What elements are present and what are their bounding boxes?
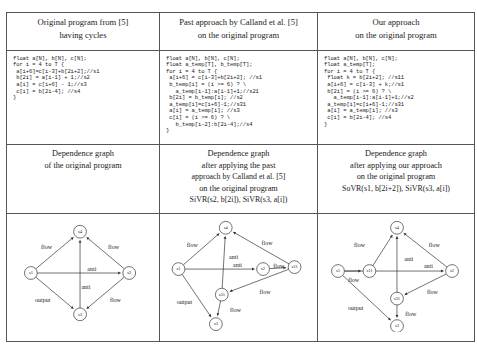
graph-edge-label: output <box>348 305 364 311</box>
graph-edge <box>233 232 289 264</box>
graph-cell-original: flowflowantiantioutputflows4s1s2s3 <box>7 214 160 342</box>
code-cell-calland: float a[N], b[N], c[N];float a_temp[T], … <box>160 50 318 145</box>
column-header-calland: Past approach by Calland et al. [5] on t… <box>160 13 317 45</box>
graph-edge-label: flow <box>262 240 274 246</box>
code-cell-ours: float a[N], b[N], c[N];float a_temp[T];f… <box>318 50 475 145</box>
caption-line: on the original program <box>162 183 315 194</box>
graph-edge <box>87 237 125 269</box>
graph-caption-calland: Dependence graphafter applying the pasta… <box>160 145 317 208</box>
table-graph-row: flowflowantiantioutputflows4s1s2s3 flowf… <box>7 214 475 342</box>
header-line: Our approach <box>321 16 471 29</box>
graph-edge-label: flow <box>260 289 272 295</box>
graph-edge-label: flow <box>405 311 417 317</box>
graph-edge-label: anti <box>424 264 433 270</box>
graph-edge-arrowhead <box>252 268 255 271</box>
graph-edge-arrowhead <box>396 315 399 318</box>
graph-node-label: s31 <box>219 292 225 297</box>
caption-line: on the original program <box>320 171 472 182</box>
graph-edge <box>183 233 219 264</box>
code-block-original: float a[N], b[N], c[N];for i = 4 to T { … <box>7 51 159 105</box>
code-block-calland: float a[N], b[N], c[N];float a_temp[T], … <box>160 51 317 138</box>
caption-line: Dependence graph <box>9 148 157 159</box>
graph-edge-label: flow <box>110 297 122 303</box>
graph-edge-arrowhead <box>79 240 82 243</box>
header-line: on the original program <box>163 29 314 42</box>
code-line: } <box>13 95 155 102</box>
caption-cell-calland: Dependence graphafter applying the pasta… <box>160 145 318 214</box>
caption-line: SiVR(s2, b[2i]), SiVR(s3, a[i]) <box>162 194 315 205</box>
graph-edge-label: flow <box>41 244 53 250</box>
graph-edge <box>87 277 125 309</box>
caption-line: of the original program <box>9 160 157 171</box>
graph-edge <box>36 237 74 269</box>
graph-edge <box>343 275 391 320</box>
graph-node-label: s11 <box>366 268 372 273</box>
graph-edge <box>182 274 211 317</box>
graph-edge <box>373 235 393 266</box>
graph-edge-label: flow <box>108 244 120 250</box>
column-header-original: Original program from [5] having cycles <box>7 13 159 45</box>
graph-edge-label: flow <box>273 264 285 270</box>
table-header-row: Original program from [5] having cycles … <box>7 13 475 51</box>
graph-edge-arrowhead <box>224 236 227 239</box>
code-line: c[i] = b[2i-4]; //s4 <box>324 115 470 122</box>
graph-edge-arrowhead <box>441 270 444 273</box>
caption-line: Dependence graph <box>162 148 315 159</box>
dependence-graph-ours: flowflowantiantiflowflowoutputflows4s1s1… <box>318 214 474 332</box>
code-line: } <box>166 128 313 135</box>
graph-caption-ours: Dependence graphafter applying our appro… <box>318 145 474 197</box>
caption-line: Dependence graph <box>320 148 472 159</box>
header-cell-calland: Past approach by Calland et al. [5] on t… <box>160 13 318 51</box>
graph-edge-label: anti <box>229 254 238 260</box>
caption-line: SoVR(s1, b[2i+2]), SiVR(s3, a[i]) <box>320 183 472 194</box>
graph-edge-label: anti <box>404 256 413 262</box>
code-line: } <box>324 122 470 129</box>
header-line: Past approach by Calland et al. [5] <box>163 16 314 29</box>
graph-edge <box>36 277 74 309</box>
graph-edge-label: anti <box>233 262 242 268</box>
caption-line: after applying our approach <box>320 160 472 171</box>
graph-edge <box>404 233 447 267</box>
graph-edge-label: anti <box>81 284 90 290</box>
graph-edge-label: output <box>177 299 193 305</box>
caption-line: after applying the past <box>162 160 315 171</box>
graph-edge-label: flow <box>230 307 242 313</box>
table-caption-row: Dependence graphof the original program … <box>7 145 475 214</box>
code-line: c[i] = b[2i-4]; //s4 <box>13 89 155 96</box>
graph-edge <box>405 274 447 295</box>
caption-cell-original: Dependence graphof the original program <box>7 145 160 214</box>
comparison-table: Original program from [5] having cycles … <box>6 12 475 342</box>
graph-edge <box>222 236 225 288</box>
graph-cell-calland: flowflowantiantiflowflowoutputflows4s1s2… <box>160 214 318 342</box>
caption-line: approach by Calland et al. [5] <box>162 171 315 182</box>
header-line: on the original program <box>321 29 471 42</box>
graph-node-label: s21 <box>291 265 297 270</box>
graph-edge-arrowhead <box>118 272 121 275</box>
graph-edge-label: anti <box>87 267 96 273</box>
figure-container: Original program from [5] having cycles … <box>0 0 477 346</box>
graph-caption-original: Dependence graphof the original program <box>7 145 159 174</box>
graph-node-label: s1 <box>177 266 181 271</box>
table-code-row: float a[N], b[N], c[N];for i = 4 to T { … <box>7 50 475 145</box>
graph-edge-label: output <box>35 297 51 303</box>
graph-edge-arrowhead <box>358 270 361 273</box>
dependence-graph-calland: flowflowantiantiflowflowoutputflows4s1s2… <box>160 214 317 332</box>
graph-edge-label: flow <box>429 242 441 248</box>
graph-node-label: s1 <box>29 270 33 275</box>
header-cell-ours: Our approach on the original program <box>318 13 475 51</box>
graph-edge-label: flow <box>427 289 439 295</box>
dependence-graph-original: flowflowantiantioutputflows4s1s2s3 <box>7 214 159 332</box>
caption-cell-ours: Dependence graphafter applying our appro… <box>318 145 475 214</box>
header-cell-original: Original program from [5] having cycles <box>7 13 160 51</box>
header-line: Original program from [5] <box>10 16 156 29</box>
graph-node-label: s31 <box>394 296 400 301</box>
graph-edge-label: flow <box>187 242 199 248</box>
graph-edge-arrowhead <box>217 313 220 316</box>
graph-edge-label: flow <box>354 242 366 248</box>
graph-node-label: s1 <box>336 268 340 273</box>
header-line: having cycles <box>10 29 156 42</box>
code-cell-original: float a[N], b[N], c[N];for i = 4 to T { … <box>7 50 160 145</box>
code-block-ours: float a[N], b[N], c[N];float a_temp[T];f… <box>318 51 474 132</box>
code-line: b_temp[i-2]:b[2i-4];//s4 <box>166 122 313 129</box>
graph-edge-arrowhead <box>396 236 399 239</box>
